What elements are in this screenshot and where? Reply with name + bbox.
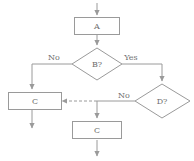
connector-b-no-to-c-left — [32, 64, 72, 89]
node-d-label: D? — [157, 97, 168, 106]
node-c-left[interactable]: C — [9, 93, 62, 110]
flowchart-diagram: A B? C D? C No Yes No — [0, 0, 194, 161]
connector-b-yes-to-d — [122, 64, 162, 81]
edge-label-b-yes: Yes — [123, 53, 137, 62]
node-a[interactable]: A — [75, 18, 120, 35]
node-a-label: A — [93, 22, 100, 31]
node-d[interactable]: D? — [135, 84, 190, 118]
edge-label-b-no: No — [48, 53, 60, 62]
node-c-left-label: C — [32, 97, 38, 106]
node-b[interactable]: B? — [72, 48, 122, 80]
flowchart-canvas: A B? C D? C No Yes No — [0, 0, 194, 161]
node-c-bottom[interactable]: C — [73, 122, 122, 139]
edge-label-d-no: No — [118, 91, 130, 100]
node-c-bottom-label: C — [94, 126, 100, 135]
node-b-label: B? — [92, 60, 102, 69]
